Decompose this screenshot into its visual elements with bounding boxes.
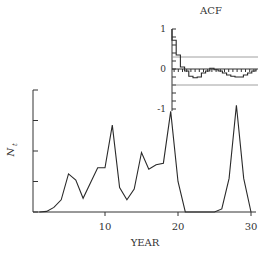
population-series-line [39,105,251,212]
y-axis-label-subscript: t [11,143,19,146]
acf-tick-label-neg1: -1 [157,104,166,114]
acf-tick-label-1: 1 [160,24,166,34]
acf-inset: ACF 1 0 -1 [157,5,258,114]
x-tick-label-10: 10 [99,221,112,232]
y-axis-label-group: N t [5,143,19,157]
chart-canvas: 10 20 30 YEAR N t ACF 1 0 -1 [0,0,262,253]
x-axis-label: YEAR [130,237,160,248]
y-axis-label: N [5,146,16,157]
x-tick-label-20: 20 [172,221,185,232]
x-tick-label-30: 30 [245,221,258,232]
acf-step-series [172,29,256,78]
acf-tick-label-0: 0 [160,64,166,74]
main-plot: 10 20 30 YEAR N t [5,90,257,248]
acf-title: ACF [199,5,222,16]
